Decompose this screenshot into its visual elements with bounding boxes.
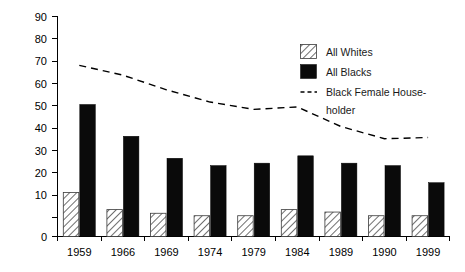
legend-label-black-female-householder-line1: Black Female House- — [326, 86, 427, 98]
bar-all-blacks-1974 — [211, 166, 227, 237]
bar-all-blacks-1969 — [167, 158, 183, 236]
y-tick-label-0: 0 — [41, 231, 47, 243]
legend-swatch-all-blacks-icon — [301, 65, 317, 79]
y-tick-label-80: 80 — [35, 33, 47, 45]
legend-swatch-all-whites-icon — [301, 45, 317, 59]
y-tick-label-50: 50 — [35, 100, 47, 112]
y-tick-label-60: 60 — [35, 78, 47, 90]
bar-all-blacks-1989 — [341, 163, 357, 236]
bar-all-blacks-1966 — [123, 136, 138, 236]
x-tick-label-1989: 1989 — [329, 246, 353, 258]
y-tick-label-70: 70 — [35, 55, 47, 67]
y-tick-label-40: 40 — [35, 122, 47, 134]
bar-all-whites-1974 — [194, 216, 210, 237]
y-tick-label-20: 20 — [35, 167, 47, 179]
poverty-rate-chart: 90 80 70 60 50 40 30 20 10 0 1959 1966 — [0, 0, 465, 272]
legend-label-black-female-householder-line2: holder — [326, 104, 356, 116]
bar-all-blacks-1984 — [298, 156, 314, 237]
x-tick-label-1984: 1984 — [285, 246, 309, 258]
x-tick-label-1990: 1990 — [372, 246, 396, 258]
bar-all-whites-1979 — [238, 216, 254, 237]
bar-all-whites-1999 — [412, 216, 428, 237]
bar-all-blacks-1990 — [385, 166, 401, 237]
chart-container: 90 80 70 60 50 40 30 20 10 0 1959 1966 — [0, 0, 465, 272]
legend-label-all-whites: All Whites — [326, 46, 373, 58]
bar-all-whites-1989 — [325, 212, 341, 236]
y-tick-label-10: 10 — [35, 189, 47, 201]
bar-all-whites-1990 — [369, 216, 385, 237]
x-tick-label-1969: 1969 — [154, 246, 178, 258]
bar-all-blacks-1999 — [429, 183, 445, 237]
y-tick-label-30: 30 — [35, 145, 47, 157]
x-tick-label-1966: 1966 — [111, 246, 135, 258]
x-tick-label-1959: 1959 — [67, 246, 91, 258]
bar-all-whites-1966 — [107, 210, 123, 237]
x-tick-label-1974: 1974 — [198, 246, 222, 258]
x-tick-label-1999: 1999 — [416, 246, 440, 258]
x-tick-label-1979: 1979 — [241, 246, 265, 258]
bar-all-whites-1969 — [151, 213, 167, 236]
bar-all-whites-1984 — [281, 210, 297, 237]
y-tick-label-90: 90 — [35, 11, 47, 23]
bar-all-whites-1959 — [63, 193, 79, 237]
bar-all-blacks-1979 — [254, 163, 270, 236]
legend-label-all-blacks: All Blacks — [326, 66, 372, 78]
bar-all-blacks-1959 — [80, 105, 96, 237]
